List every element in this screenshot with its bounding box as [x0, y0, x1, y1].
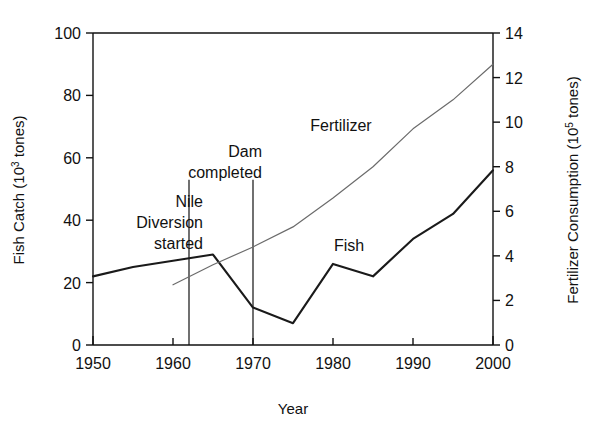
x-tick-label: 1980 — [315, 355, 351, 372]
left-tick-label: 40 — [63, 212, 81, 229]
left-tick-label: 60 — [63, 150, 81, 167]
left-tick-label: 80 — [63, 87, 81, 104]
left-axis-title: Fish Catch (103 tones) — [10, 116, 27, 265]
annotation-line: Diversion — [136, 214, 203, 231]
x-tick-label: 1990 — [395, 355, 431, 372]
x-tick-label: 1950 — [75, 355, 111, 372]
left-axis-ticks: 020406080100 — [54, 25, 93, 354]
chart-container: 020406080100 02468101214 195019601970198… — [0, 0, 596, 432]
x-axis-ticks: 195019601970198019902000 — [75, 336, 511, 372]
annotation-line: Nile — [175, 193, 203, 210]
series-label-fish: Fish — [334, 237, 364, 254]
right-axis-title: Fertilizer Consumption (105 tones) — [564, 76, 581, 303]
x-axis-title: Year — [278, 400, 308, 417]
right-tick-label: 12 — [505, 70, 523, 87]
series-inline-labels: FishFertilizer — [310, 117, 372, 254]
right-tick-label: 8 — [505, 159, 514, 176]
annotation-line: started — [154, 235, 203, 252]
annotation-line: completed — [188, 164, 262, 181]
axes-group — [93, 33, 493, 345]
annotation-label-nile-diversion: NileDiversionstarted — [136, 193, 203, 252]
right-axis-ticks: 02468101214 — [493, 25, 523, 354]
x-tick-label: 1970 — [235, 355, 271, 372]
series-label-fertilizer: Fertilizer — [310, 117, 372, 134]
annotation-label-dam-completed: Damcompleted — [188, 143, 262, 181]
right-tick-label: 2 — [505, 292, 514, 309]
series-line-fish — [93, 170, 493, 323]
series-paths — [93, 64, 493, 323]
right-tick-label: 0 — [505, 337, 514, 354]
x-tick-label: 1960 — [155, 355, 191, 372]
dual-axis-line-chart: 020406080100 02468101214 195019601970198… — [0, 0, 596, 432]
right-tick-label: 4 — [505, 248, 514, 265]
x-tick-label: 2000 — [475, 355, 511, 372]
right-tick-label: 14 — [505, 25, 523, 42]
right-tick-label: 6 — [505, 203, 514, 220]
left-tick-label: 100 — [54, 25, 81, 42]
left-tick-label: 0 — [72, 337, 81, 354]
left-tick-label: 20 — [63, 275, 81, 292]
right-tick-label: 10 — [505, 114, 523, 131]
annotation-line: Dam — [228, 143, 262, 160]
annotation-texts: NileDiversionstartedDamcompleted — [136, 143, 262, 252]
